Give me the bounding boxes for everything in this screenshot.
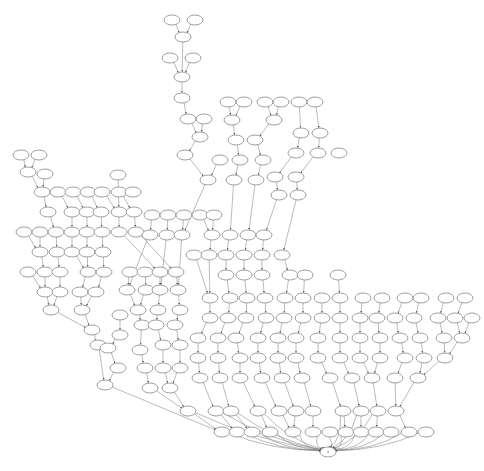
- edge-arrow: [299, 107, 300, 128]
- tree-node: [288, 406, 304, 416]
- edge-arrow: [221, 415, 232, 429]
- tree-node: [464, 313, 480, 323]
- edge-arrow: [158, 330, 160, 340]
- tree-node: [305, 427, 321, 437]
- edge-arrow: [375, 363, 378, 373]
- tree-node: [368, 427, 384, 437]
- tree-node: [190, 353, 206, 363]
- edge-arrow: [298, 138, 300, 148]
- tree-node: [210, 333, 226, 343]
- tree-node: [65, 187, 81, 197]
- edge-arrow: [92, 196, 97, 207]
- edge-arrow: [95, 335, 96, 340]
- edge-arrow: [186, 62, 190, 72]
- tree-node: [295, 293, 311, 303]
- tree-node: [110, 170, 126, 180]
- tree-node: [290, 190, 306, 200]
- tree-node: [436, 333, 452, 343]
- tree-node: [277, 293, 293, 303]
- tree-node: [250, 406, 266, 416]
- tree-node: [97, 380, 113, 390]
- edge-arrow: [222, 383, 228, 406]
- tree-node: [256, 230, 272, 240]
- edge-arrow: [62, 196, 68, 207]
- tree-node: [293, 128, 309, 138]
- tree-node: [294, 373, 310, 383]
- edge-arrow: [130, 294, 134, 305]
- tree-node: [172, 340, 188, 350]
- tree-node: [335, 406, 351, 416]
- edge-arrow: [33, 276, 41, 288]
- tree-node: [134, 320, 150, 330]
- edge-arrow: [130, 240, 147, 285]
- edge-arrow: [237, 145, 238, 155]
- edge-arrow: [32, 176, 38, 187]
- tree-node: [352, 313, 368, 323]
- tree-node: [218, 270, 234, 280]
- tree-node: [206, 210, 222, 220]
- tree-node: [111, 227, 127, 237]
- edge-arrow: [190, 159, 203, 176]
- edge-arrow: [233, 125, 234, 135]
- tree-node: [164, 15, 180, 25]
- edge-arrow: [280, 323, 282, 333]
- tree-node: [232, 373, 248, 383]
- tree-node: [20, 267, 36, 277]
- edge-arrow: [364, 362, 369, 373]
- edge-arrow: [147, 373, 149, 383]
- edge-arrow: [268, 106, 271, 115]
- tree-node: [172, 305, 188, 315]
- tree-node: [162, 53, 178, 63]
- tree-node: [418, 427, 434, 437]
- edge-arrow: [42, 257, 44, 267]
- tree-node: [177, 150, 193, 160]
- tree-node: [274, 373, 290, 383]
- tree-node: [196, 114, 212, 124]
- tree-node: [52, 287, 68, 297]
- tree-node: [174, 93, 190, 103]
- tree-node: [162, 383, 178, 393]
- edge-arrow: [398, 362, 402, 373]
- edge-arrow: [239, 322, 243, 333]
- tree-node: [310, 148, 326, 158]
- tree-node: [438, 293, 454, 303]
- tree-node: [413, 293, 429, 303]
- edge-arrow: [378, 323, 379, 333]
- edge-arrow: [76, 256, 83, 268]
- tree-node: [322, 373, 338, 383]
- edge-arrow: [109, 372, 113, 381]
- tree-node: [397, 353, 413, 363]
- tree-node: [410, 373, 426, 383]
- edge-arrow: [329, 437, 332, 447]
- tree-node: [397, 293, 413, 303]
- tree-node: [392, 333, 408, 343]
- edge-arrow: [277, 182, 278, 190]
- edge-arrow: [333, 383, 341, 406]
- edge-arrow: [237, 343, 238, 353]
- tree-node: [220, 97, 236, 107]
- tree-node: [274, 250, 290, 260]
- tree-node: [220, 313, 236, 323]
- edge-arrow: [227, 240, 228, 250]
- tree-node: [271, 190, 287, 200]
- edge-arrow: [322, 362, 327, 373]
- tree-node: [201, 250, 217, 260]
- edge-arrow: [229, 303, 230, 313]
- edge-arrow: [107, 196, 115, 208]
- edge-arrow: [192, 123, 196, 132]
- edge-arrow: [245, 240, 246, 250]
- edge-arrow: [212, 164, 217, 175]
- tree-node: [174, 230, 190, 240]
- edge-arrow: [258, 165, 260, 175]
- edge-arrow: [210, 240, 211, 250]
- edge-arrow: [283, 415, 289, 427]
- tree-node: [112, 310, 128, 320]
- edge-arrow: [54, 296, 57, 305]
- edge-arrow: [395, 383, 396, 406]
- tree-node: [370, 406, 386, 416]
- tree-node: [388, 406, 404, 416]
- tree-node: [148, 320, 164, 330]
- tree-node: [244, 427, 260, 437]
- tree-node: [250, 353, 266, 363]
- tree-node: [210, 353, 226, 363]
